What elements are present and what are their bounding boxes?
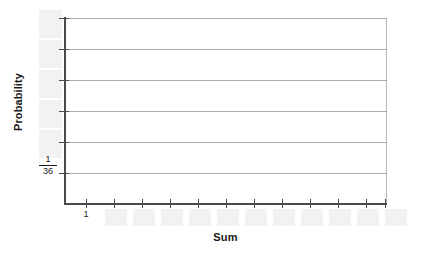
x-axis-tick (310, 199, 311, 208)
gridline (64, 49, 387, 50)
fraction-denominator: 36 (38, 166, 58, 176)
y-axis-tick (59, 142, 69, 143)
gridline (64, 111, 387, 112)
y-label-placeholder-block (39, 70, 62, 98)
gridline (64, 80, 387, 81)
x-label-placeholder-block (245, 209, 267, 226)
x-axis-tick (366, 199, 367, 208)
y-axis-tick (59, 80, 69, 81)
x-axis-tick (338, 199, 339, 208)
x-label-placeholder-block (217, 209, 239, 226)
x-axis-tick (198, 199, 199, 208)
x-label-placeholder-block (273, 209, 295, 226)
y-label-placeholder-block (39, 100, 62, 128)
x-axis-tick (86, 199, 87, 208)
x-axis-title: Sum (64, 231, 387, 243)
y-axis-title: Probability (12, 62, 24, 142)
x-label-placeholder-block (357, 209, 379, 226)
y-axis-tick (59, 49, 69, 50)
x-label-placeholder-block (161, 209, 183, 226)
y-axis-tick-label-one-thirtysixth: 1 36 (38, 155, 58, 176)
y-axis-tick (59, 111, 69, 112)
y-axis-tick (59, 173, 69, 174)
x-axis-tick (170, 199, 171, 208)
x-axis-tick (254, 199, 255, 208)
x-axis-tick (385, 199, 386, 208)
y-label-placeholder-block (39, 10, 62, 38)
gridline (64, 18, 387, 19)
x-axis-tick (114, 199, 115, 208)
probability-distribution-chart: 1 36 1 Probability Sum (0, 0, 426, 254)
y-label-placeholder-block (39, 130, 62, 158)
x-axis-tick (282, 199, 283, 208)
x-label-placeholder-block (329, 209, 351, 226)
y-axis-tick (59, 18, 69, 19)
x-axis-tick (226, 199, 227, 208)
y-label-placeholder-block (39, 40, 62, 68)
x-axis-tick (142, 199, 143, 208)
gridline (64, 173, 387, 174)
x-label-placeholder-block (385, 209, 407, 226)
x-label-placeholder-block (301, 209, 323, 226)
x-label-placeholder-block (133, 209, 155, 226)
x-axis-tick-label-1: 1 (76, 209, 96, 219)
x-label-placeholder-block (105, 209, 127, 226)
fraction-numerator: 1 (38, 155, 58, 165)
x-label-placeholder-block (189, 209, 211, 226)
gridline (64, 142, 387, 143)
